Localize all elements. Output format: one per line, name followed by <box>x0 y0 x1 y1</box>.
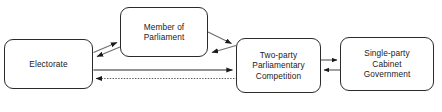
node-electorate[interactable]: Electorate <box>4 39 93 89</box>
node-electorate-label: Electorate <box>26 59 70 69</box>
node-single-party-cabinet-government-label: Single-party Cabinet Government <box>361 48 414 79</box>
edge-electorate-to-mp <box>94 43 118 53</box>
node-two-party-parliamentary-competition-label: Two-party Parliamentary Competition <box>249 50 307 81</box>
node-single-party-cabinet-government[interactable]: Single-party Cabinet Government <box>340 37 434 91</box>
node-two-party-parliamentary-competition[interactable]: Two-party Parliamentary Competition <box>236 38 321 93</box>
edge-twoparty-to-mp <box>212 46 236 53</box>
flow-diagram: Electorate Member of Parliament Two-part… <box>0 0 442 112</box>
edge-mp-to-electorate <box>97 47 120 57</box>
node-member-of-parliament-label: Member of Parliament <box>141 22 188 43</box>
node-member-of-parliament[interactable]: Member of Parliament <box>120 7 208 57</box>
edge-mp-to-twoparty <box>208 32 232 44</box>
